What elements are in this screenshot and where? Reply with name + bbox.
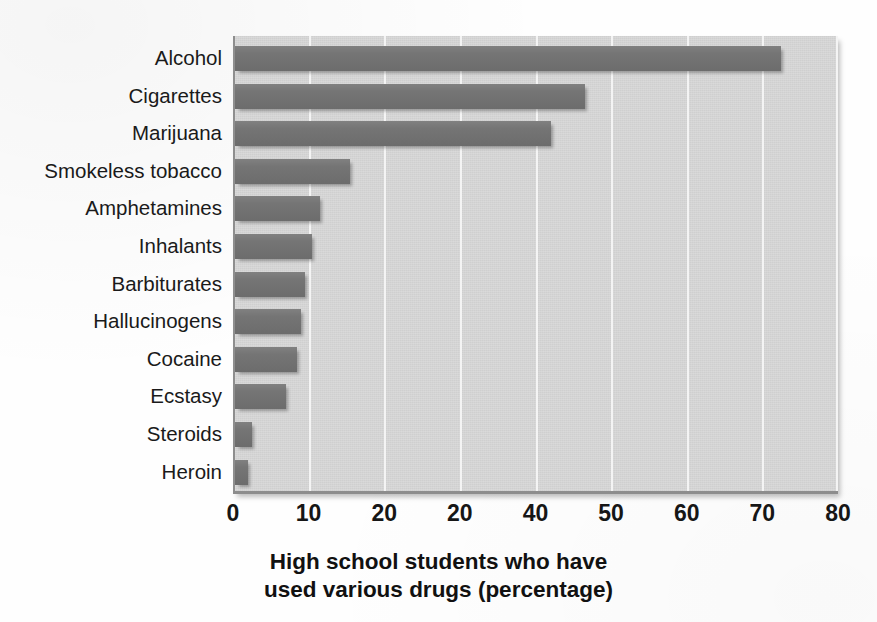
bar: [235, 460, 248, 485]
category-axis-labels: Alcohol Cigarettes Marijuana Smokeless t…: [0, 36, 222, 494]
category-label: Amphetamines: [0, 198, 222, 219]
category-label: Hallucinogens: [0, 311, 222, 332]
bar-sheen: [235, 84, 585, 109]
bar-sheen: [235, 272, 305, 297]
bar: [235, 309, 301, 334]
bar: [235, 234, 312, 259]
x-axis-title-line-2: used various drugs (percentage): [0, 576, 877, 604]
x-axis-line: [233, 491, 838, 494]
category-label: Smokeless tobacco: [0, 161, 222, 182]
bar-sheen: [235, 234, 312, 259]
category-label: Cocaine: [0, 349, 222, 370]
x-tick-label: 20: [371, 502, 397, 525]
category-label: Cigarettes: [0, 86, 222, 107]
category-label: Alcohol: [0, 48, 222, 69]
category-label: Ecstasy: [0, 386, 222, 407]
bar-sheen: [235, 46, 781, 71]
x-tick-label: 50: [598, 502, 624, 525]
x-axis-title-line-1: High school students who have: [0, 548, 877, 576]
bar-sheen: [235, 460, 248, 485]
category-label: Barbiturates: [0, 274, 222, 295]
x-tick-label: 0: [227, 502, 240, 525]
bar: [235, 196, 320, 221]
gridline: [836, 36, 838, 491]
gridline: [762, 36, 764, 491]
category-label: Heroin: [0, 462, 222, 483]
category-label: Marijuana: [0, 123, 222, 144]
bar: [235, 272, 305, 297]
bar: [235, 46, 781, 71]
y-axis-line: [233, 36, 235, 494]
bar: [235, 159, 350, 184]
x-tick-label: 60: [674, 502, 700, 525]
category-label: Inhalants: [0, 236, 222, 257]
gridline: [611, 36, 613, 491]
category-label: Steroids: [0, 424, 222, 445]
bar-sheen: [235, 159, 350, 184]
bar: [235, 121, 551, 146]
x-tick-label: 40: [523, 502, 549, 525]
bar: [235, 384, 286, 409]
bar: [235, 422, 252, 447]
x-tick-label: 20: [447, 502, 473, 525]
bar: [235, 84, 585, 109]
bar-sheen: [235, 347, 297, 372]
gridline: [687, 36, 689, 491]
bar-sheen: [235, 196, 320, 221]
bar-sheen: [235, 422, 252, 447]
plot-area: [233, 36, 838, 494]
bar-sheen: [235, 121, 551, 146]
bar-chart-figure: Alcohol Cigarettes Marijuana Smokeless t…: [0, 0, 877, 622]
x-axis-tick-labels: 01020204050607080: [0, 502, 877, 536]
x-tick-label: 70: [750, 502, 776, 525]
x-tick-label: 10: [296, 502, 322, 525]
bar-sheen: [235, 309, 301, 334]
bar-sheen: [235, 384, 286, 409]
x-axis-title: High school students who have used vario…: [0, 548, 877, 604]
x-tick-label: 80: [825, 502, 851, 525]
bar: [235, 347, 297, 372]
